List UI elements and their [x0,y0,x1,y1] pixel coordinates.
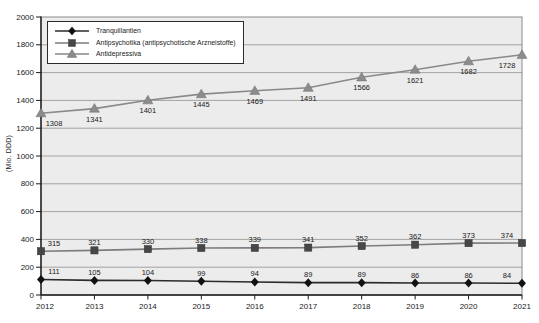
x-tick-label: 2014 [139,302,157,311]
y-tick-label: 200 [21,263,35,272]
y-tick-label: 1600 [16,68,34,77]
legend-item-label: Antipsychotika (antipsychotische Arzneis… [96,38,236,48]
x-tick-label: 2019 [406,302,424,311]
legend-item: Antidepressiva [54,49,236,60]
square-marker-icon [69,39,76,46]
y-tick-label: 1800 [16,40,34,49]
square-marker-icon [412,241,419,248]
data-point-label: 1621 [407,76,424,85]
square-marker-icon [358,242,365,249]
data-point-label: 1682 [460,67,477,76]
diamond-marker-icon [68,27,76,36]
data-point-label: 330 [142,237,155,246]
y-tick-label: 2000 [16,13,34,22]
legend-diamond-symbol-icon [54,26,90,36]
data-point-label: 1341 [86,115,103,124]
y-tick-label: 1400 [16,96,34,105]
square-marker-icon [518,239,525,246]
data-point-label: 84 [503,271,511,280]
data-point-label: 1445 [193,100,210,109]
square-marker-icon [144,246,151,253]
data-point-label: 321 [88,238,101,247]
legend-square-symbol-icon [54,38,90,48]
x-tick-label: 2015 [192,302,210,311]
legend-item: Antipsychotika (antipsychotische Arzneis… [54,37,236,48]
square-marker-icon [305,244,312,251]
data-point-label: 89 [357,270,365,279]
data-point-label: 86 [464,271,472,280]
x-tick-label: 2020 [460,302,478,311]
data-point-label: 94 [251,269,259,278]
x-tick-label: 2018 [353,302,371,311]
chart-legend: TranquillantienAntipsychotika (antipsych… [47,21,244,64]
y-tick-label: 600 [21,207,35,216]
data-point-label: 339 [249,235,262,244]
legend-item-label: Tranquillantien [96,26,141,36]
data-point-label: 99 [197,269,205,278]
y-tick-label: 800 [21,179,35,188]
line-chart-figure: 0200400600800100012001400160018002000201… [0,0,539,323]
x-tick-label: 2017 [299,302,317,311]
data-point-label: 1308 [46,119,63,128]
data-point-label: 1469 [246,97,263,106]
x-tick-label: 2016 [246,302,264,311]
data-point-label: 104 [142,268,155,277]
y-tick-label: 400 [21,235,35,244]
data-point-label: 1401 [140,106,157,115]
data-point-label: 374 [501,231,514,240]
legend-triangle-symbol-icon [54,49,90,59]
x-tick-label: 2021 [513,302,531,311]
data-point-label: 1491 [300,94,317,103]
square-marker-icon [465,240,472,247]
y-axis-title: (Mio. DDD) [5,119,12,189]
data-point-label: 373 [462,231,475,240]
square-marker-icon [198,244,205,251]
data-point-label: 341 [302,235,315,244]
square-marker-icon [251,244,258,251]
square-marker-icon [37,248,44,255]
y-tick-label: 1000 [16,152,34,161]
data-point-label: 89 [304,270,312,279]
data-point-label: 1728 [499,61,516,70]
data-point-label: 315 [48,239,61,248]
y-tick-label: 1200 [16,124,34,133]
data-point-label: 105 [88,268,101,277]
y-tick-label: 0 [30,291,35,300]
x-tick-label: 2012 [36,302,54,311]
data-point-label: 338 [195,236,208,245]
legend-item-label: Antidepressiva [96,49,141,59]
data-point-label: 86 [411,271,419,280]
data-point-label: 111 [48,267,59,276]
data-point-label: 1566 [353,83,370,92]
data-point-label: 362 [409,232,422,241]
square-marker-icon [91,247,98,254]
x-tick-label: 2013 [86,302,104,311]
legend-item: Tranquillantien [54,26,236,37]
data-point-label: 352 [355,234,368,243]
